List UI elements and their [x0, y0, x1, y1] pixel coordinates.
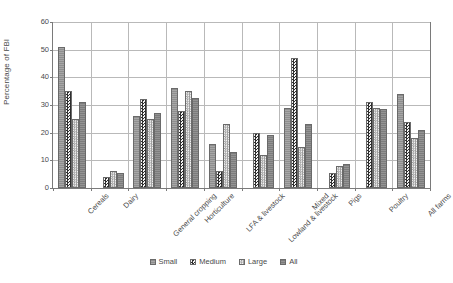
bar-all	[343, 164, 350, 188]
bar-group	[204, 22, 242, 188]
x-tick-mark	[53, 188, 54, 191]
bar-all	[192, 98, 199, 188]
legend-swatch-icon	[280, 259, 286, 265]
y-tick-label: 40	[41, 74, 49, 82]
x-tick-mark	[128, 188, 129, 191]
bar-medium	[329, 173, 336, 188]
legend-item-small[interactable]: Small	[150, 258, 178, 266]
legend-label: Large	[248, 258, 267, 266]
x-tick-mark	[204, 188, 205, 191]
bar-medium	[366, 102, 373, 188]
bar-large	[336, 166, 343, 188]
x-tick-mark	[91, 188, 92, 191]
plot-area: 0102030405060	[52, 22, 430, 189]
bar-group	[279, 22, 317, 188]
bar-small	[284, 108, 291, 188]
bar-all	[117, 173, 124, 188]
bar-large	[260, 155, 267, 188]
bar-all	[230, 152, 237, 188]
bar-medium	[140, 99, 147, 188]
bar-all	[418, 130, 425, 188]
x-axis-label: Poultry	[388, 192, 410, 214]
x-axis-label: Cereals	[87, 192, 111, 216]
bar-medium	[103, 177, 110, 188]
legend-label: Small	[159, 258, 178, 266]
bar-medium	[65, 91, 72, 188]
y-tick-label: 60	[41, 18, 49, 26]
y-tick-label: 0	[45, 184, 49, 192]
bar-medium	[253, 133, 260, 188]
x-axis-label: Pigs	[347, 192, 363, 208]
x-tick-mark	[242, 188, 243, 191]
bar-small	[397, 94, 404, 188]
bar-all	[305, 124, 312, 188]
bar-all	[267, 135, 274, 188]
bar-group	[392, 22, 430, 188]
bar-medium	[404, 122, 411, 188]
legend-item-medium[interactable]: Medium	[190, 258, 226, 266]
legend-label: Medium	[199, 258, 226, 266]
bar-group	[166, 22, 204, 188]
bar-large	[373, 108, 380, 188]
x-tick-mark	[392, 188, 393, 191]
bar-large	[411, 138, 418, 188]
x-tick-mark	[166, 188, 167, 191]
bar-large	[298, 147, 305, 189]
bar-small	[133, 116, 140, 188]
bar-large	[72, 119, 79, 188]
bar-all	[79, 102, 86, 188]
x-axis-label: Dairy	[122, 192, 140, 210]
bar-group	[53, 22, 91, 188]
x-axis-label: Lowland & livestock	[287, 192, 339, 244]
bar-medium	[178, 111, 185, 188]
legend-swatch-icon	[239, 259, 245, 265]
legend-item-all[interactable]: All	[280, 258, 297, 266]
plot-right-border	[430, 22, 431, 188]
bar-group	[242, 22, 280, 188]
x-tick-mark	[355, 188, 356, 191]
bar-all	[380, 109, 387, 188]
x-axis-label: LFA & livestock	[245, 192, 286, 233]
x-tick-mark	[317, 188, 318, 191]
bar-small	[209, 144, 216, 188]
bar-large	[185, 91, 192, 188]
bar-group	[128, 22, 166, 188]
chart-legend: SmallMediumLargeAll	[0, 258, 447, 266]
y-tick-label: 30	[41, 101, 49, 109]
bar-all	[154, 113, 161, 188]
y-axis-title: Percentage of FBI	[2, 39, 11, 105]
bar-small	[171, 88, 178, 188]
bar-group	[317, 22, 355, 188]
bar-medium	[216, 171, 223, 188]
bar-large	[223, 124, 230, 188]
legend-item-large[interactable]: Large	[239, 258, 267, 266]
bar-large	[147, 119, 154, 188]
bar-group	[355, 22, 393, 188]
x-tick-mark	[430, 188, 431, 191]
y-tick-label: 20	[41, 129, 49, 137]
bar-group	[91, 22, 129, 188]
bar-medium	[291, 58, 298, 188]
legend-swatch-icon	[190, 259, 196, 265]
bar-small	[58, 47, 65, 188]
legend-swatch-icon	[150, 259, 156, 265]
x-axis-label: All farms	[427, 192, 453, 218]
legend-label: All	[289, 258, 297, 266]
y-tick-label: 50	[41, 46, 49, 54]
y-tick-label: 10	[41, 157, 49, 165]
bar-large	[110, 171, 117, 188]
